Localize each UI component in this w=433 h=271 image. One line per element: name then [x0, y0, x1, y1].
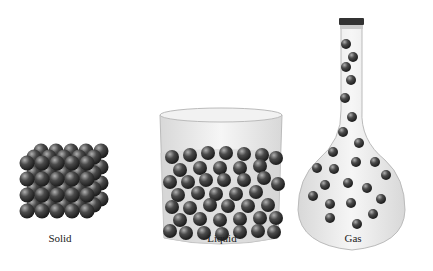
particle	[173, 213, 187, 227]
particle	[233, 212, 247, 226]
particle	[171, 188, 185, 202]
particle	[201, 146, 215, 160]
particle	[354, 138, 364, 148]
particle	[181, 175, 195, 189]
particle	[165, 150, 179, 164]
particle	[193, 161, 207, 175]
particle	[65, 156, 80, 171]
solid-lattice	[20, 144, 109, 219]
particle	[65, 204, 80, 219]
particle	[257, 171, 271, 185]
particle	[370, 157, 380, 167]
particle	[261, 198, 275, 212]
particle	[352, 219, 362, 229]
particle	[381, 170, 391, 180]
particle	[217, 173, 231, 187]
particle	[341, 39, 351, 49]
particle	[163, 224, 177, 238]
liquid-beaker	[160, 108, 285, 244]
particle	[65, 188, 80, 203]
particle	[50, 188, 65, 203]
particle	[80, 156, 95, 171]
particle	[173, 163, 187, 177]
particle	[80, 204, 95, 219]
particle	[347, 112, 357, 122]
particle	[241, 199, 255, 213]
particle	[325, 199, 335, 209]
particle	[343, 178, 353, 188]
particle	[35, 156, 50, 171]
particle	[65, 172, 80, 187]
particle	[35, 188, 50, 203]
particle	[229, 187, 243, 201]
particle	[183, 148, 197, 162]
particle	[233, 161, 247, 175]
liquid-label: Liquid	[182, 232, 262, 244]
gas-flask	[298, 18, 405, 250]
particle	[340, 93, 350, 103]
particle	[312, 163, 322, 173]
particle	[271, 177, 285, 191]
particle	[213, 213, 227, 227]
particle	[80, 172, 95, 187]
states-of-matter-diagram	[0, 0, 433, 271]
particle	[221, 199, 235, 213]
particle	[269, 151, 283, 165]
particle	[348, 52, 358, 62]
particle	[193, 212, 207, 226]
particle	[80, 188, 95, 203]
particle	[308, 191, 318, 201]
particle	[237, 147, 251, 161]
particle	[199, 173, 213, 187]
particle	[329, 164, 339, 174]
particle	[50, 156, 65, 171]
particle	[346, 198, 356, 208]
particle	[269, 211, 283, 225]
particle	[320, 180, 330, 190]
particle	[376, 194, 386, 204]
particle	[253, 159, 267, 173]
particle	[35, 204, 50, 219]
particle	[213, 161, 227, 175]
particle	[20, 204, 35, 219]
particle	[191, 186, 205, 200]
particle	[50, 204, 65, 219]
particle	[219, 146, 233, 160]
particle	[341, 62, 351, 72]
gas-label: Gas	[313, 232, 393, 244]
particle	[20, 156, 35, 171]
particle	[165, 200, 179, 214]
particle	[20, 188, 35, 203]
particle	[267, 225, 281, 239]
particle	[325, 213, 335, 223]
particle	[328, 147, 338, 157]
particle	[50, 172, 65, 187]
particle	[183, 201, 197, 215]
particle	[351, 157, 361, 167]
particle	[203, 198, 217, 212]
particle	[249, 185, 263, 199]
particle	[253, 211, 267, 225]
particle	[237, 173, 251, 187]
particle	[362, 183, 372, 193]
solid-label: Solid	[20, 232, 100, 244]
particle	[346, 75, 356, 85]
particle	[163, 175, 177, 189]
particle	[368, 209, 378, 219]
particle	[338, 127, 348, 137]
particle	[35, 172, 50, 187]
particle	[20, 172, 35, 187]
